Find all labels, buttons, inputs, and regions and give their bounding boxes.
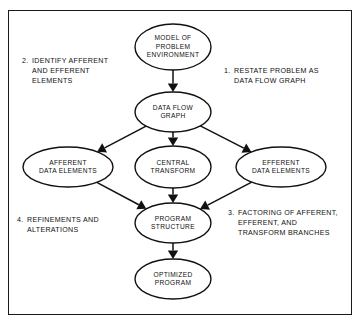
annotation-line: FACTORING OF AFFERENT, (238, 209, 338, 217)
annotation-number: 1. (224, 67, 231, 75)
node-label-line: PROGRAM (155, 215, 192, 222)
node-label-line: CENTRAL (156, 159, 189, 166)
annotation-number: 3. (228, 209, 235, 217)
annotation-line: DATA FLOW GRAPH (234, 77, 306, 85)
node-label-line: DATA ELEMENTS (252, 167, 310, 174)
node-label-line: STRUCTURE (151, 223, 195, 230)
node-model-of-problem-environment: MODEL OFPROBLEMENVIRONMENT (135, 24, 211, 70)
node-label-line: TRANSFORM (151, 167, 196, 174)
node-data-flow-graph: DATA FLOWGRAPH (135, 92, 211, 132)
edge-dataflow-to-efferent (200, 126, 251, 153)
edge-line (208, 182, 252, 205)
annotation-line: RESTATE PROBLEM AS (234, 67, 319, 75)
nodes-layer: MODEL OFPROBLEMENVIRONMENTDATA FLOWGRAPH… (23, 24, 326, 299)
figure-canvas: MODEL OFPROBLEMENVIRONMENTDATA FLOWGRAPH… (0, 0, 362, 325)
arrowhead-icon (168, 84, 178, 93)
annotation-line: EFFERENT, AND (238, 219, 297, 227)
node-label-line: EFFERENT (262, 159, 300, 166)
node-label-line: OPTIMIZED (153, 271, 192, 278)
flowchart-diagram: MODEL OFPROBLEMENVIRONMENTDATA FLOWGRAPH… (0, 0, 362, 325)
node-label-line: PROBLEM (156, 43, 191, 50)
annotation-step-2: 2.IDENTIFY AFFERENTAND EFFERENTELEMENTS (22, 57, 109, 85)
arrowhead-icon (168, 138, 178, 147)
node-program-structure: PROGRAMSTRUCTURE (135, 203, 211, 243)
edge-line (200, 126, 244, 148)
annotation-step-3: 3.FACTORING OF AFFERENT,EFFERENT, ANDTRA… (228, 209, 338, 237)
arrowhead-icon (168, 251, 178, 260)
annotation-number: 4. (17, 216, 24, 224)
annotation-step-1: 1.RESTATE PROBLEM ASDATA FLOW GRAPH (224, 67, 319, 85)
edge-central-to-program (168, 188, 178, 203)
node-label-line: MODEL OF (155, 34, 192, 41)
annotation-line: REFINEMENTS AND (27, 216, 99, 224)
edge-model-to-dataflow (168, 70, 178, 92)
node-label-line: ENVIRONMENT (147, 51, 200, 58)
annotation-step-4: 4.REFINEMENTS ANDALTERATIONS (17, 216, 99, 234)
edge-dataflow-to-central (168, 132, 178, 146)
edge-dataflow-to-afferent (97, 126, 146, 152)
node-label-line: DATA FLOW (153, 104, 194, 111)
edge-line (105, 126, 146, 148)
arrowhead-icon (168, 195, 178, 204)
annotation-line: ELEMENTS (32, 77, 73, 85)
annotation-line: TRANSFORM BRANCHES (238, 229, 330, 237)
node-label-line: GRAPH (160, 112, 185, 119)
edge-efferent-to-program (200, 182, 252, 209)
node-afferent-data-elements: AFFERENTDATA ELEMENTS (23, 147, 113, 187)
edge-afferent-to-program (97, 182, 147, 209)
edge-program-to-optimized (168, 243, 178, 259)
annotation-line: AND EFFERENT (32, 67, 90, 75)
node-label-line: AFFERENT (49, 159, 87, 166)
node-central-transform: CENTRALTRANSFORM (135, 146, 211, 188)
annotation-number: 2. (22, 57, 29, 65)
node-optimized-program: OPTIMIZEDPROGRAM (135, 259, 211, 299)
node-label-line: PROGRAM (155, 279, 192, 286)
node-efferent-data-elements: EFFERENTDATA ELEMENTS (236, 147, 326, 187)
annotation-line: ALTERATIONS (27, 226, 79, 234)
node-label-line: DATA ELEMENTS (39, 167, 97, 174)
edge-line (97, 182, 139, 204)
annotation-line: IDENTIFY AFFERENT (32, 57, 109, 65)
